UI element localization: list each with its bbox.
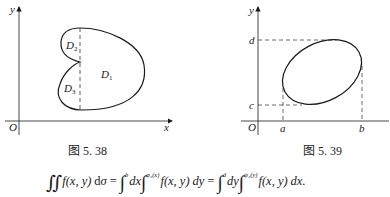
integral-limits: dc (223, 171, 226, 185)
sigma-symbol: σ (101, 174, 107, 189)
region-label-d3: D3 (63, 82, 76, 96)
x-axis-label: x (163, 121, 169, 133)
tick-label-d: d (249, 34, 255, 46)
equals-sign: = (110, 174, 117, 189)
dx: dx. (291, 174, 306, 189)
args: (x, y) (164, 174, 190, 189)
figure-5-38: O x y D2 D1 D3 (5, 3, 172, 135)
integral-limits: ψ₂(y)y (244, 171, 258, 185)
args: (x, y) (262, 174, 288, 189)
dx: dx (129, 174, 141, 189)
y-axis-label: y (9, 3, 15, 15)
figure-caption-5-39: 图 5. 39 (303, 141, 342, 159)
origin-label: O (248, 121, 256, 133)
dy: dy (227, 174, 239, 189)
y-axis-label: y (248, 4, 254, 16)
integral-limits: ba (125, 171, 128, 185)
origin-label: O (9, 121, 17, 133)
tick-label-b: b (359, 122, 365, 134)
tick-label-c: c (249, 99, 254, 111)
figure-caption-5-38: 图 5. 38 (68, 141, 107, 159)
args: (x, y) (66, 174, 92, 189)
iterated-integral-formula: ∬ f (x, y) dσ = ∫ ba dx ∫ φ₂(x)x f (x, y… (46, 168, 376, 194)
integral-limits: φ₂(x)x (146, 171, 159, 185)
figure-5-39: O y d c a b (241, 4, 389, 135)
equals-sign: = (207, 174, 214, 189)
tick-label-a: a (280, 122, 286, 134)
dy: dy (193, 174, 205, 189)
region-label-d1: D1 (100, 68, 113, 82)
double-integral-sign: ∬ (46, 173, 62, 192)
region-label-d2: D2 (65, 39, 78, 53)
